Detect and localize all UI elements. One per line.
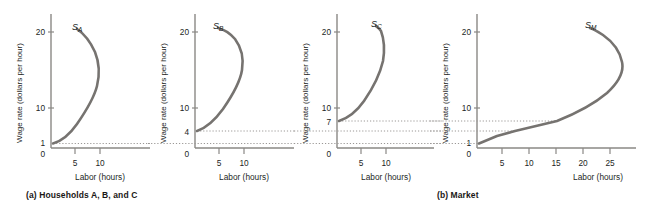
y-tick-20: 20: [36, 27, 46, 37]
x-tick-10: 10: [524, 158, 534, 168]
panel-household-b: Wage rate (dollars per hour) 20 10 4 0 5…: [148, 0, 296, 185]
supply-curve-market: [479, 28, 622, 144]
curve-label-b-subscript: B: [219, 25, 224, 32]
y-tick-20: 20: [462, 27, 472, 37]
panel-market: Wage rate (dollars per hour) 20 10 1 0 5…: [430, 0, 649, 185]
panel-household-a: Wage rate (dollars per hour) 20 10 1 0 5…: [0, 0, 150, 185]
panel-b-chart: Wage rate (dollars per hour) 20 10 4 0 5…: [148, 0, 296, 185]
supply-curve-c: [339, 26, 384, 121]
panel-market-chart: Wage rate (dollars per hour) 20 10 1 0 5…: [430, 0, 649, 185]
y-tick-10: 10: [322, 103, 332, 113]
x-tick-15: 15: [551, 158, 561, 168]
y-axis-title: Wage rate (dollars per hour): [159, 43, 168, 143]
x-tick-5: 5: [359, 158, 364, 168]
x-tick-20: 20: [578, 158, 588, 168]
y-tick-10: 10: [36, 103, 46, 113]
x-tick-25: 25: [605, 158, 615, 168]
curve-label-c-subscript: C: [377, 23, 382, 30]
y-tick-4: 4: [184, 127, 189, 137]
y-tick-0: 0: [326, 149, 331, 159]
caption-panel-b: (b) Market: [437, 190, 479, 200]
y-axis-title: Wage rate (dollars per hour): [301, 43, 310, 143]
x-tick-10: 10: [95, 158, 105, 168]
y-tick-0: 0: [40, 149, 45, 159]
y-axis-title: Wage rate (dollars per hour): [441, 43, 450, 143]
y-tick-0: 0: [466, 149, 471, 159]
x-tick-5: 5: [217, 158, 222, 168]
panel-c-chart: Wage rate (dollars per hour) 20 10 7 0 5…: [294, 0, 442, 185]
x-axis-title: Labor (hours): [361, 172, 411, 182]
x-axis-title: Labor (hours): [219, 172, 269, 182]
y-tick-0: 0: [184, 149, 189, 159]
y-tick-20: 20: [180, 27, 190, 37]
y-tick-7: 7: [326, 117, 331, 127]
y-tick-10: 10: [180, 103, 190, 113]
x-axis-title: Labor (hours): [75, 172, 125, 182]
panel-household-c: Wage rate (dollars per hour) 20 10 7 0 5…: [294, 0, 442, 185]
x-axis-title: Labor (hours): [573, 172, 623, 182]
x-tick-5: 5: [500, 158, 505, 168]
labor-supply-figure: Wage rate (dollars per hour) 20 10 1 0 5…: [0, 0, 649, 215]
y-tick-20: 20: [322, 27, 332, 37]
x-tick-10: 10: [381, 158, 391, 168]
x-tick-10: 10: [239, 158, 249, 168]
panel-a-chart: Wage rate (dollars per hour) 20 10 1 0 5…: [0, 0, 150, 185]
y-tick-10: 10: [462, 103, 472, 113]
y-tick-1: 1: [40, 138, 45, 148]
curve-label-market-subscript: M: [591, 24, 597, 31]
x-tick-5: 5: [73, 158, 78, 168]
supply-curve-a: [53, 29, 99, 144]
curve-label-a-subscript: A: [77, 26, 82, 33]
supply-curve-b: [197, 28, 243, 131]
caption-panel-a: (a) Households A, B, and C: [26, 190, 137, 200]
y-axis-title: Wage rate (dollars per hour): [15, 43, 24, 143]
